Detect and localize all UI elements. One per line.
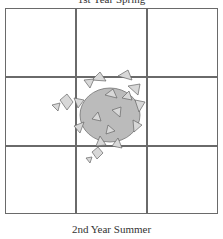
plant-cluster-icon: [0, 0, 223, 239]
bottom-caption: 2nd Year Summer: [0, 223, 223, 235]
